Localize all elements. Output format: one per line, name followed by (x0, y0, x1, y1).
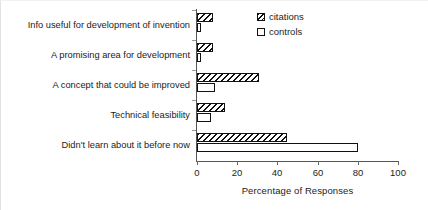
bar-controls-3 (197, 113, 211, 122)
x-axis-title: Percentage of Responses (197, 185, 398, 196)
bar-citations-1 (197, 43, 213, 52)
x-tick-label-0: 0 (182, 167, 212, 179)
x-tick-20 (237, 161, 238, 165)
category-label-2: A concept that could be improved (0, 80, 190, 91)
x-tick-100 (398, 161, 399, 165)
y-tick-0 (192, 10, 196, 11)
x-tick-label-100: 100 (383, 167, 413, 179)
category-label-4: Didn't learn about it before now (0, 140, 190, 151)
bar-controls-4 (197, 143, 358, 152)
x-tick-label-40: 40 (262, 167, 292, 179)
legend-label-citations: citations (269, 11, 304, 22)
x-tick-0 (197, 161, 198, 165)
x-tick-80 (358, 161, 359, 165)
y-tick-1 (192, 40, 196, 41)
legend-label-controls: controls (269, 26, 302, 37)
bar-chart: 0 20 40 60 80 100 Percentage of Response… (0, 0, 428, 210)
x-axis-line (196, 161, 399, 162)
x-tick-label-80: 80 (343, 167, 373, 179)
x-tick-60 (318, 161, 319, 165)
bar-controls-2 (197, 83, 215, 92)
x-tick-40 (277, 161, 278, 165)
legend-swatch-citations-icon (257, 13, 265, 21)
category-label-3: Technical feasibility (0, 110, 190, 121)
legend-item-citations: citations (257, 10, 304, 23)
legend-item-controls: controls (257, 25, 304, 38)
legend-swatch-controls-icon (257, 28, 265, 36)
bar-citations-3 (197, 103, 225, 112)
x-tick-label-60: 60 (303, 167, 333, 179)
bar-citations-2 (197, 73, 259, 82)
bar-citations-0 (197, 13, 213, 22)
y-tick-3 (192, 100, 196, 101)
bar-citations-4 (197, 133, 287, 142)
category-label-1: A promising area for development (0, 50, 190, 61)
y-tick-4 (192, 130, 196, 131)
x-tick-label-20: 20 (222, 167, 252, 179)
y-tick-2 (192, 70, 196, 71)
category-label-0: Info useful for development of invention (0, 20, 190, 31)
chart-legend: citations controls (257, 10, 304, 40)
bar-controls-0 (197, 23, 201, 32)
bar-controls-1 (197, 53, 201, 62)
